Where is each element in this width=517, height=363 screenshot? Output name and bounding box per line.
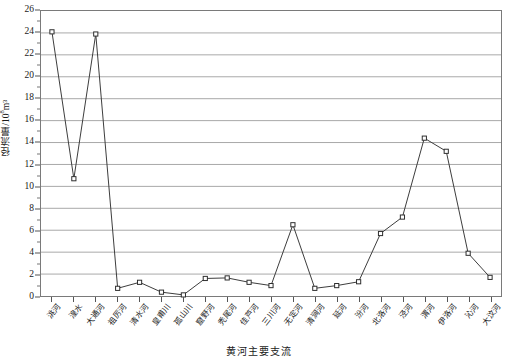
x-tick-label: 祖厉河 xyxy=(107,303,128,327)
y-tick-label: 2 xyxy=(29,270,34,280)
x-tick-mark xyxy=(337,297,338,302)
data-point-marker[interactable] xyxy=(94,32,98,36)
x-tick-mark xyxy=(227,297,228,302)
x-tick-mark xyxy=(359,297,360,302)
x-tick-mark xyxy=(183,297,184,302)
data-point-marker[interactable] xyxy=(50,30,54,34)
x-tick-mark xyxy=(425,297,426,302)
x-tick-label: 佳芦河 xyxy=(239,303,260,327)
data-point-marker[interactable] xyxy=(488,275,492,279)
x-tick-mark xyxy=(73,297,74,302)
x-tick-mark xyxy=(205,297,206,302)
x-tick-label: 泾河 xyxy=(398,303,414,321)
y-tick-label: 6 xyxy=(29,226,34,236)
x-tick-label: 大通河 xyxy=(85,303,106,327)
x-tick-label: 窟野河 xyxy=(195,303,216,327)
x-tick-label: 洮河 xyxy=(46,303,62,321)
plot-area xyxy=(40,10,502,297)
x-tick-mark xyxy=(271,297,272,302)
data-point-marker[interactable] xyxy=(203,276,207,280)
x-tick-mark xyxy=(117,297,118,302)
x-tick-mark xyxy=(491,297,492,302)
y-tick-label: 20 xyxy=(25,71,35,81)
data-point-marker[interactable] xyxy=(137,280,141,284)
data-point-marker[interactable] xyxy=(378,231,382,235)
y-axis: 02468101214161820222426 xyxy=(0,10,40,297)
x-tick-label: 清水河 xyxy=(129,303,150,327)
x-tick-mark xyxy=(469,297,470,302)
data-point-marker[interactable] xyxy=(400,215,404,219)
data-point-marker[interactable] xyxy=(72,177,76,181)
x-tick-mark xyxy=(139,297,140,302)
data-point-marker[interactable] xyxy=(116,286,120,290)
x-tick-mark xyxy=(403,297,404,302)
x-tick-label: 汾河 xyxy=(354,303,370,321)
x-axis-title: 黄河主要支流 xyxy=(0,343,517,358)
data-point-marker[interactable] xyxy=(444,149,448,153)
x-tick-mark xyxy=(293,297,294,302)
series-line xyxy=(52,32,490,295)
data-point-marker[interactable] xyxy=(247,280,251,284)
y-tick-label: 12 xyxy=(25,160,35,170)
data-point-marker[interactable] xyxy=(269,284,273,288)
x-tick-label: 无定河 xyxy=(283,303,304,327)
data-point-marker[interactable] xyxy=(159,290,163,294)
x-tick-label: 湟水 xyxy=(68,303,84,321)
y-tick-label: 16 xyxy=(25,116,35,126)
x-tick-mark xyxy=(315,297,316,302)
y-tick-label: 24 xyxy=(25,27,35,37)
y-tick-label: 0 xyxy=(29,292,34,302)
x-tick-mark xyxy=(95,297,96,302)
x-tick-mark xyxy=(381,297,382,302)
x-tick-label: 渭河 xyxy=(420,303,436,321)
data-point-marker[interactable] xyxy=(313,286,317,290)
y-tick-label: 22 xyxy=(25,49,35,59)
x-tick-label: 孤山川 xyxy=(173,303,194,327)
data-point-marker[interactable] xyxy=(335,284,339,288)
data-point-marker[interactable] xyxy=(291,223,295,227)
x-tick-mark xyxy=(447,297,448,302)
data-point-marker[interactable] xyxy=(422,136,426,140)
x-tick-label: 三川河 xyxy=(261,303,282,327)
x-tick-label: 延河 xyxy=(332,303,348,321)
y-tick-label: 4 xyxy=(29,248,34,258)
y-tick-label: 8 xyxy=(29,204,34,214)
chart-container: 径流量/108m³ 02468101214161820222426 洮河湟水大通… xyxy=(0,0,517,363)
y-tick-label: 26 xyxy=(25,5,35,15)
x-tick-mark xyxy=(249,297,250,302)
data-point-marker[interactable] xyxy=(357,280,361,284)
data-point-marker[interactable] xyxy=(466,251,470,255)
x-tick-mark xyxy=(161,297,162,302)
x-tick-mark xyxy=(51,297,52,302)
x-tick-label: 北洛河 xyxy=(371,303,392,327)
x-tick-label: 伊洛河 xyxy=(437,303,458,327)
x-tick-label: 皇甫川 xyxy=(151,303,172,327)
x-axis-tick-labels: 洮河湟水大通河祖厉河清水河皇甫川孤山川窟野河秃尾河佳芦河三川河无定河清涧河延河汾… xyxy=(40,303,502,345)
y-tick-label: 14 xyxy=(25,138,35,148)
x-tick-label: 秃尾河 xyxy=(217,303,238,327)
x-tick-label: 大汶河 xyxy=(481,303,502,327)
x-tick-label: 沁河 xyxy=(464,303,480,321)
data-series xyxy=(41,11,501,296)
y-tick-label: 10 xyxy=(25,182,35,192)
y-tick-label: 18 xyxy=(25,94,35,104)
x-tick-label: 清涧河 xyxy=(305,303,326,327)
data-point-marker[interactable] xyxy=(225,276,229,280)
